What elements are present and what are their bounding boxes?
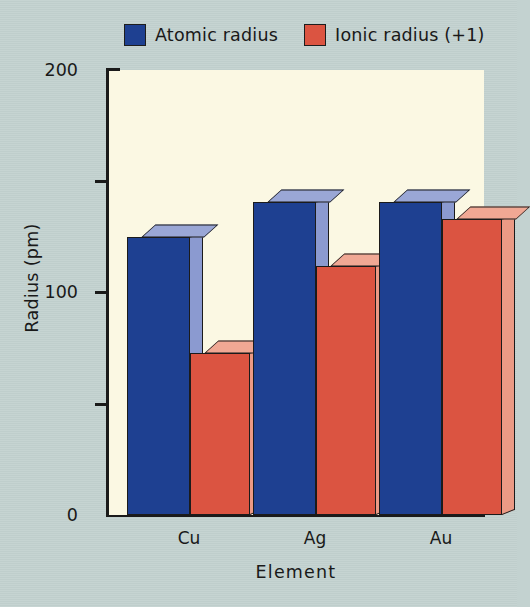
chart-legend: Atomic radius Ionic radius (+1) [124, 24, 485, 46]
legend-swatch-ionic-radius [304, 24, 326, 46]
y-tick-label-0: 0 [0, 505, 92, 525]
bar-top-face [456, 206, 530, 219]
bar-side-face [502, 214, 515, 515]
y-tick-50 [95, 403, 108, 406]
bar-cu-atomic-radius [127, 237, 190, 515]
bar-front-face [316, 266, 376, 515]
bar-front-face [190, 353, 250, 515]
bar-front-face [379, 202, 442, 515]
plot-area [108, 70, 484, 515]
bar-au-ionic-radius [442, 219, 502, 515]
bar-au-atomic-radius [379, 202, 442, 515]
x-category-label-au: Au [401, 528, 481, 548]
y-tick-100 [95, 291, 108, 294]
y-tick-150 [95, 180, 108, 183]
bar-front-face [127, 237, 190, 515]
y-axis-title: Radius (pm) [22, 198, 42, 358]
y-tick-labels: 200 100 0 [0, 0, 92, 607]
legend-swatch-atomic-radius [124, 24, 146, 46]
bar-top-face [141, 224, 218, 237]
y-tick-label-100: 100 [0, 282, 92, 302]
y-axis-top-cap [106, 68, 120, 71]
bar-cu-ionic-radius [190, 353, 250, 515]
bar-front-face [253, 202, 316, 515]
y-tick-label-200: 200 [0, 60, 92, 80]
x-category-label-cu: Cu [149, 528, 229, 548]
x-axis-title: Element [108, 562, 484, 582]
bar-top-face [393, 189, 470, 202]
x-axis-line [106, 515, 485, 518]
legend-label-atomic-radius: Atomic radius [155, 25, 278, 45]
x-category-label-ag: Ag [275, 528, 355, 548]
legend-entry-ionic-radius: Ionic radius (+1) [304, 24, 485, 46]
legend-label-ionic-radius: Ionic radius (+1) [335, 25, 485, 45]
bar-ag-ionic-radius [316, 266, 376, 515]
bar-front-face [442, 219, 502, 515]
bar-top-face [267, 189, 344, 202]
bar-ag-atomic-radius [253, 202, 316, 515]
legend-entry-atomic-radius: Atomic radius [124, 24, 278, 46]
